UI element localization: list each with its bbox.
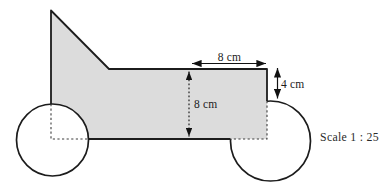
top-width-dimension-label: 8 cm bbox=[218, 51, 241, 63]
scale-drawing-diagram: 8 cm 4 cm 8 cm Scale 1 : 25 bbox=[0, 0, 384, 186]
vehicle-scale-drawing-svg: 8 cm 4 cm 8 cm Scale 1 : 25 bbox=[0, 0, 384, 186]
front-wheel-circle bbox=[17, 104, 89, 176]
scale-label: Scale 1 : 25 bbox=[320, 130, 379, 144]
body-height-dimension-label: 8 cm bbox=[194, 98, 217, 110]
vehicle-body-shape bbox=[51, 11, 267, 140]
cab-height-dimension-label: 4 cm bbox=[281, 78, 304, 90]
